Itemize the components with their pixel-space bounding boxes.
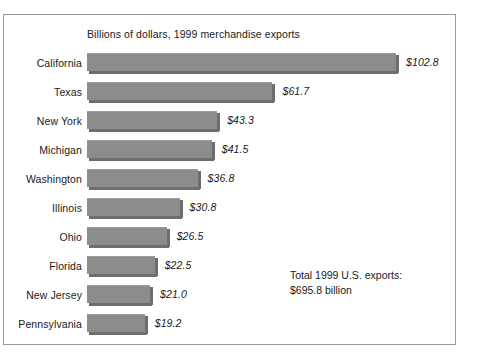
bar: [87, 198, 180, 220]
bar-bottom-shadow: [89, 274, 157, 277]
total-exports-label: Total 1999 U.S. exports:: [290, 268, 402, 283]
bar-category-label: Illinois: [0, 202, 82, 214]
bar: [87, 256, 155, 278]
bar-face: [87, 111, 217, 129]
chart-plot-area: California$102.8Texas$61.7New York$43.3M…: [0, 0, 479, 360]
bar-value-label: $22.5: [165, 259, 192, 271]
bar-face: [87, 285, 150, 303]
bar-bottom-shadow: [89, 158, 214, 161]
bar: [87, 53, 396, 75]
bar: [87, 227, 167, 249]
bar-bottom-shadow: [89, 187, 200, 190]
bar-bottom-shadow: [89, 245, 169, 248]
bar-value-label: $43.3: [227, 114, 254, 126]
bar-row: Texas$61.7: [0, 82, 479, 108]
bar-value-label: $30.8: [190, 201, 217, 213]
bar-bottom-shadow: [89, 129, 219, 132]
bar: [87, 140, 212, 162]
bar: [87, 169, 198, 191]
bar-category-label: Ohio: [0, 231, 82, 243]
bar-face: [87, 53, 396, 71]
bar-row: New Jersey$21.0: [0, 285, 479, 311]
export-chart-figure: Billions of dollars, 1999 merchandise ex…: [0, 0, 479, 360]
total-exports-annotation: Total 1999 U.S. exports: $695.8 billion: [290, 268, 402, 298]
bar-category-label: Florida: [0, 260, 82, 272]
bar: [87, 285, 150, 307]
bar-row: Pennsylvania$19.2: [0, 314, 479, 340]
bar-face: [87, 227, 167, 245]
bar-category-label: New York: [0, 115, 82, 127]
bar-face: [87, 169, 198, 187]
bar-row: Illinois$30.8: [0, 198, 479, 224]
bar-row: New York$43.3: [0, 111, 479, 137]
bar: [87, 82, 272, 104]
bar-category-label: California: [0, 57, 82, 69]
bar-bottom-shadow: [89, 71, 398, 74]
bar-value-label: $36.8: [208, 172, 235, 184]
bar: [87, 111, 217, 133]
bar-face: [87, 256, 155, 274]
bar-bottom-shadow: [89, 100, 274, 103]
bar-row: Michigan$41.5: [0, 140, 479, 166]
bar-face: [87, 140, 212, 158]
bar-value-label: $61.7: [282, 85, 309, 97]
bar-value-label: $21.0: [160, 288, 187, 300]
bar-row: California$102.8: [0, 53, 479, 79]
bar-value-label: $41.5: [222, 143, 249, 155]
bar-bottom-shadow: [89, 332, 147, 335]
bar-row: Ohio$26.5: [0, 227, 479, 253]
bar-category-label: Washington: [0, 173, 82, 185]
bar-bottom-shadow: [89, 216, 182, 219]
bar-value-label: $19.2: [155, 317, 182, 329]
bar-row: Washington$36.8: [0, 169, 479, 195]
bar-face: [87, 314, 145, 332]
bar-value-label: $26.5: [177, 230, 204, 242]
bar-value-label: $102.8: [406, 56, 439, 68]
bar: [87, 314, 145, 336]
total-exports-value: $695.8 billion: [290, 283, 402, 298]
bar-category-label: Texas: [0, 86, 82, 98]
bar-face: [87, 82, 272, 100]
bar-category-label: Michigan: [0, 144, 82, 156]
bar-face: [87, 198, 180, 216]
bar-row: Florida$22.5: [0, 256, 479, 282]
bar-category-label: Pennsylvania: [0, 318, 82, 330]
bar-category-label: New Jersey: [0, 289, 82, 301]
bar-bottom-shadow: [89, 303, 152, 306]
